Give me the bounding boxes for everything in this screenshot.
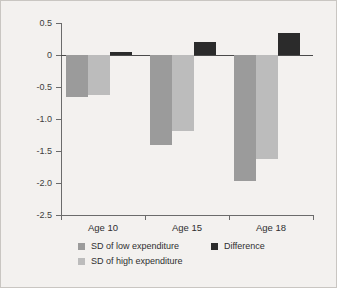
bar-age-10-series-1 [66,55,88,97]
y-tick-mark [56,183,61,184]
y-tick-label: 0.5 [39,19,52,28]
x-tick-mark [313,215,314,220]
legend-item: SD of high expenditure [78,254,183,269]
y-tick-mark [56,119,61,120]
bar-age-18-series-3 [278,33,300,55]
legend-label: Difference [224,242,265,251]
x-tick-mark [145,215,146,220]
bar-age-10-series-2 [88,55,110,95]
x-tick-mark [61,215,62,220]
x-axis-label: Age 15 [172,223,202,233]
plot-area: 0.50-0.5-1.0-1.5-2.0-2.5 Age 10Age 15Age… [61,23,313,215]
y-tick-label: -2.5 [36,211,52,220]
chart-legend: SD of low expenditureSD of high expendit… [61,239,326,279]
x-axis-label: Age 18 [256,223,286,233]
legend-swatch-icon [78,243,85,250]
legend-label: SD of high expenditure [91,257,183,266]
y-tick-label: -2.0 [36,179,52,188]
bar-age-15-series-2 [172,55,194,131]
y-tick-mark [56,87,61,88]
y-tick-label: -1.5 [36,147,52,156]
legend-item: Difference [211,239,265,254]
legend-column-left: SD of low expenditureSD of high expendit… [78,239,183,269]
legend-swatch-icon [211,243,218,250]
chart-figure: 0.50-0.5-1.0-1.5-2.0-2.5 Age 10Age 15Age… [0,0,337,288]
bar-age-15-series-1 [150,55,172,145]
legend-item: SD of low expenditure [78,239,183,254]
bar-age-15-series-3 [194,42,216,55]
y-tick-label: -0.5 [36,83,52,92]
y-tick-label: 0 [47,51,52,60]
x-tick-mark [229,215,230,220]
legend-swatch-icon [78,258,85,265]
y-tick-mark [56,55,61,56]
y-tick-mark [56,23,61,24]
bar-age-18-series-1 [234,55,256,181]
legend-label: SD of low expenditure [91,242,179,251]
x-axis-label: Age 10 [88,223,118,233]
legend-column-right: Difference [211,239,265,254]
y-tick-label: -1.0 [36,115,52,124]
bar-age-10-series-3 [110,52,132,55]
x-axis-line [61,215,313,216]
y-axis-line [61,23,62,215]
bar-age-18-series-2 [256,55,278,159]
y-tick-mark [56,151,61,152]
